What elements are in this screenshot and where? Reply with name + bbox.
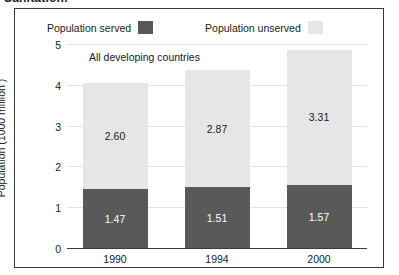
legend-label-unserved: Population unserved <box>205 22 301 34</box>
bar-stack-2000[interactable]: 3.311.57 <box>287 50 352 249</box>
x-axis-tick-label: 2000 <box>287 253 352 265</box>
y-axis-tick-label: 4 <box>21 80 61 92</box>
plot-area: All developing countries 012345 2.601.47… <box>67 45 367 249</box>
bar-value-label-unserved: 2.60 <box>105 130 125 142</box>
bar-stack-1994[interactable]: 2.871.51 <box>185 70 250 249</box>
chart-annotation: All developing countries <box>89 51 200 63</box>
x-axis-tick-label: 1990 <box>83 253 148 265</box>
y-axis-title: Population (1000 million ) <box>0 79 7 197</box>
bar-segment-unserved[interactable]: 2.60 <box>83 83 148 189</box>
gridline <box>67 44 367 45</box>
bar-value-label-unserved: 2.87 <box>207 123 227 135</box>
legend-label-served: Population served <box>47 22 131 34</box>
bar-segment-served[interactable]: 1.57 <box>287 185 352 249</box>
x-axis-tick-label: 1994 <box>185 253 250 265</box>
legend-swatch-icon-unserved <box>308 21 323 34</box>
y-axis-tick-label: 1 <box>21 202 61 214</box>
bar-value-label-served: 1.57 <box>309 211 329 223</box>
bar-value-label-served: 1.51 <box>207 212 227 224</box>
y-axis-tick-label: 0 <box>21 243 61 255</box>
y-axis-tick-label: 2 <box>21 161 61 173</box>
bar-segment-served[interactable]: 1.47 <box>83 189 148 249</box>
chart-legend: Population served Population unserved <box>15 21 383 34</box>
x-axis-line <box>67 248 367 249</box>
y-axis-tick-label: 5 <box>21 39 61 51</box>
chart-figure-frame: Population served Population unserved Po… <box>14 8 384 268</box>
bar-value-label-served: 1.47 <box>105 213 125 225</box>
legend-swatch-icon-served <box>138 21 153 34</box>
bar-value-label-unserved: 3.31 <box>309 111 329 123</box>
cut-off-page-title: Sanitation: <box>4 0 68 5</box>
legend-item-served: Population served <box>47 21 153 34</box>
bar-segment-unserved[interactable]: 2.87 <box>185 70 250 187</box>
bar-segment-served[interactable]: 1.51 <box>185 187 250 249</box>
bar-segment-unserved[interactable]: 3.31 <box>287 50 352 185</box>
y-axis-tick-label: 3 <box>21 121 61 133</box>
bar-stack-1990[interactable]: 2.601.47 <box>83 83 148 249</box>
legend-item-unserved: Population unserved <box>205 21 323 34</box>
